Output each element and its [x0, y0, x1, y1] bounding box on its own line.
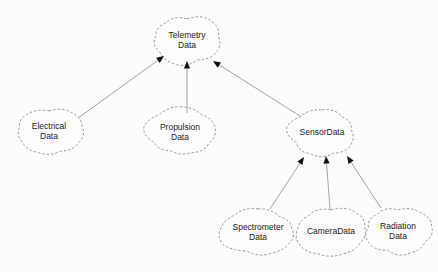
edge-electrical-to-telemetry[interactable] [78, 56, 164, 118]
edge-radiation-to-sensordata[interactable] [347, 156, 381, 208]
node-shape-electrical[interactable] [18, 109, 83, 154]
node-shape-telemetry[interactable] [154, 17, 220, 66]
arrow-head-sensordata-to-telemetry [213, 61, 221, 68]
edge-sensordata-to-telemetry[interactable] [213, 61, 300, 116]
edge-line-electrical-to-telemetry [78, 60, 158, 118]
edge-cameradata-to-sensordata[interactable] [323, 156, 330, 209]
node-shape-sensordata[interactable] [286, 110, 353, 157]
edge-spectrometer-to-sensordata[interactable] [270, 157, 304, 209]
arrow-head-spectrometer-to-sensordata [297, 157, 304, 165]
arrow-head-electrical-to-telemetry [156, 56, 164, 63]
arrow-head-radiation-to-sensordata [347, 156, 354, 164]
arrow-head-cameradata-to-sensordata [323, 156, 329, 164]
edge-propulsion-to-telemetry[interactable] [184, 61, 190, 113]
node-shape-radiation[interactable] [366, 209, 432, 255]
diagram-canvas: TelemetryDataElectricalDataPropulsionDat… [0, 0, 438, 272]
edge-line-spectrometer-to-sensordata [270, 163, 300, 209]
edge-line-sensordata-to-telemetry [219, 65, 300, 116]
graph-svg [0, 0, 438, 272]
edge-line-radiation-to-sensordata [351, 162, 381, 208]
edge-line-cameradata-to-sensordata [327, 163, 330, 209]
node-shape-spectrometer[interactable] [219, 209, 293, 256]
node-shape-cameradata[interactable] [296, 208, 365, 256]
node-shape-propulsion[interactable] [144, 107, 216, 154]
